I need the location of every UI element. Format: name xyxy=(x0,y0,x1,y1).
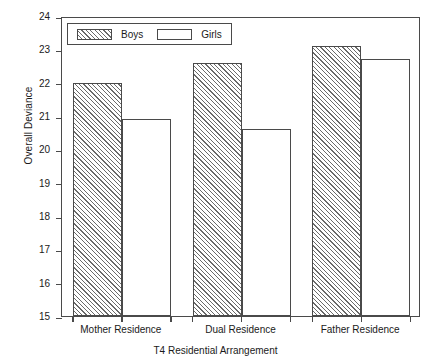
y-tick-label: 24 xyxy=(24,11,50,22)
x-tick-mark xyxy=(410,316,411,322)
bar-boys-0 xyxy=(73,83,122,316)
x-category-label: Dual Residence xyxy=(181,324,301,335)
y-tick-mark xyxy=(56,318,62,319)
bar-girls-1 xyxy=(242,129,291,316)
y-tick-label: 16 xyxy=(24,278,50,289)
y-tick-label: 20 xyxy=(24,144,50,155)
bar-chart: Overall Deviance 24232221201918171615 Mo… xyxy=(0,0,431,364)
x-category-label: Mother Residence xyxy=(61,324,181,335)
x-axis-title: T4 Residential Arrangement xyxy=(0,345,431,356)
y-tick-label: 22 xyxy=(24,78,50,89)
hatched-swatch-icon xyxy=(77,29,112,40)
legend-label-girls: Girls xyxy=(201,29,222,40)
y-tick-mark xyxy=(56,118,62,119)
legend-entry-girls: Girls xyxy=(157,29,222,40)
legend-entry-boys: Boys xyxy=(77,29,143,40)
empty-swatch-icon xyxy=(157,29,192,40)
y-tick-label: 23 xyxy=(24,44,50,55)
plot-area: 24232221201918171615 xyxy=(61,17,420,317)
y-tick-mark xyxy=(56,84,62,85)
x-tick-mark xyxy=(361,316,362,322)
x-tick-mark xyxy=(241,316,242,322)
y-tick-mark xyxy=(56,251,62,252)
y-tick-mark xyxy=(56,151,62,152)
x-tick-mark xyxy=(192,316,193,322)
bar-boys-1 xyxy=(193,63,242,316)
y-tick-label: 19 xyxy=(24,178,50,189)
y-tick-mark xyxy=(56,284,62,285)
bar-girls-2 xyxy=(361,59,410,316)
y-tick-mark xyxy=(56,184,62,185)
y-tick-mark xyxy=(56,218,62,219)
bar-girls-0 xyxy=(122,119,171,316)
x-tick-mark xyxy=(290,316,291,322)
x-tick-mark xyxy=(72,316,73,322)
y-tick-label: 21 xyxy=(24,111,50,122)
y-tick-label: 15 xyxy=(24,311,50,322)
y-tick-mark xyxy=(56,51,62,52)
x-tick-mark xyxy=(121,316,122,322)
y-tick-label: 18 xyxy=(24,211,50,222)
legend: Boys Girls xyxy=(67,23,232,45)
x-tick-mark xyxy=(312,316,313,322)
x-category-label: Father Residence xyxy=(300,324,420,335)
x-tick-mark xyxy=(170,316,171,322)
y-tick-label: 17 xyxy=(24,244,50,255)
legend-label-boys: Boys xyxy=(121,29,143,40)
bar-boys-2 xyxy=(312,46,361,316)
y-tick-mark xyxy=(56,18,62,19)
